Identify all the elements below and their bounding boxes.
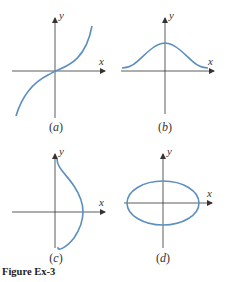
figure-canvas	[0, 0, 227, 282]
panel-b	[121, 18, 214, 114]
panel-a-y-label: y	[59, 9, 64, 21]
panel-d	[124, 154, 212, 248]
panel-b-x-label: x	[208, 55, 213, 67]
panel-a-label: (a)	[41, 120, 71, 135]
panel-c-x-label: x	[99, 196, 104, 208]
panel-d-label: (d)	[148, 251, 178, 266]
panel-b-label: (b)	[150, 120, 180, 135]
panel-a	[12, 18, 105, 118]
panel-c-y-label: y	[59, 145, 64, 157]
figure-caption: Figure Ex-3	[2, 266, 55, 277]
panel-c	[12, 154, 105, 249]
panel-d-x-label: x	[207, 187, 212, 199]
panel-c-label: (c)	[41, 251, 71, 266]
panel-d-y-label: y	[167, 145, 172, 157]
curve-c	[57, 159, 83, 249]
panel-b-y-label: y	[169, 9, 174, 21]
panel-a-x-label: x	[99, 55, 104, 67]
